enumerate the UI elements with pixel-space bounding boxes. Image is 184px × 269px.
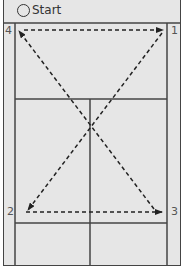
path-3-to-4 xyxy=(19,31,154,209)
path-1-to-2 xyxy=(28,33,162,210)
position-label-2: 2 xyxy=(7,206,14,218)
position-label-4: 4 xyxy=(5,25,12,37)
court-lines xyxy=(0,0,184,269)
position-label-3: 3 xyxy=(171,206,178,218)
position-label-1: 1 xyxy=(171,25,178,37)
